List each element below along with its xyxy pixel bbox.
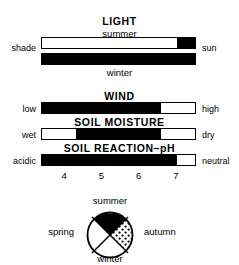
soil-reaction-ph-bar (41, 154, 196, 166)
section-title-soil-moisture: SOIL MOISTURE (0, 116, 239, 128)
light-winter-bar (41, 53, 196, 65)
ph-tick-6: 6 (136, 170, 141, 181)
light-summer-bar (41, 37, 196, 49)
season-label-autumn: autumn (144, 227, 204, 237)
ph-tick-4: 4 (62, 170, 67, 181)
soil-reaction-right-label: neutral (202, 157, 239, 166)
soil-reaction-ph-bar-fill (42, 155, 177, 165)
section-title-light: LIGHT (0, 15, 239, 27)
ph-scale: 4567 (41, 170, 196, 184)
season-circle-graphic (82, 207, 138, 263)
season-label-summer: summer (75, 196, 145, 206)
light-summer-bar-fill (177, 38, 195, 48)
section-title-wind: WIND (0, 90, 239, 102)
soil-moisture-bar (41, 128, 196, 140)
light-winter-sublabel: winter (0, 67, 239, 78)
season-label-spring: spring (22, 227, 74, 237)
soil-moisture-bar-fill (76, 129, 162, 139)
soil-moisture-right-label: dry (202, 131, 239, 140)
ph-tick-5: 5 (99, 170, 104, 181)
flowering-season-circle: summer spring autumn winter (0, 196, 239, 265)
section-title-soil-reaction: SOIL REACTION–pH (0, 142, 239, 154)
ph-tick-7: 7 (173, 170, 178, 181)
wind-bar (41, 102, 196, 114)
wind-left-label: low (0, 105, 36, 114)
light-left-label: shade (0, 44, 36, 53)
soil-moisture-left-label: wet (0, 131, 36, 140)
wind-right-label: high (202, 105, 239, 114)
wind-bar-fill (42, 103, 161, 113)
species-ecology-indicator-figure: LIGHT summer shade sun winter WIND low h… (0, 0, 239, 265)
soil-reaction-left-label: acidic (0, 157, 36, 166)
light-right-label: sun (202, 44, 239, 53)
